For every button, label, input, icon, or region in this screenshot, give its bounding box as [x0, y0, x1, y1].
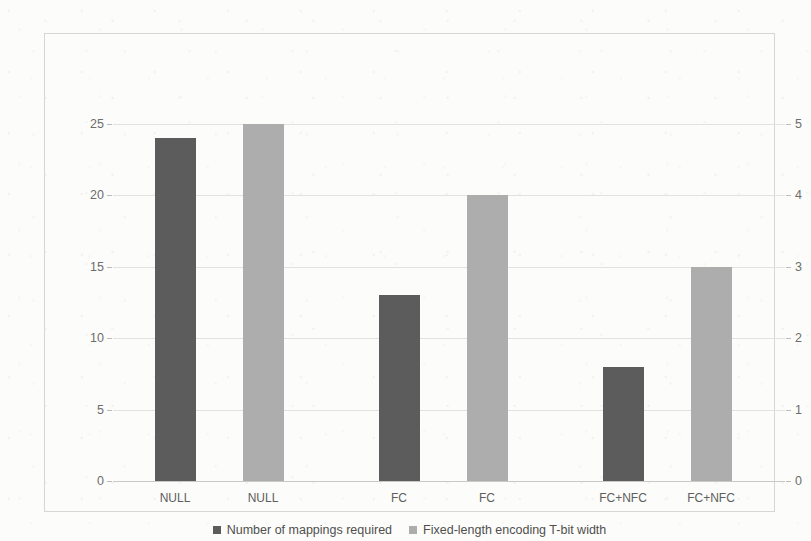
- y-axis-right-tick-mark: [786, 338, 791, 339]
- y-axis-left-tick-mark: [107, 481, 112, 482]
- y-axis-right-tick-mark: [786, 124, 791, 125]
- gridline: [113, 481, 785, 482]
- x-axis-tick-label: FC+NFC: [599, 491, 647, 505]
- legend-label: Fixed-length encoding T-bit width: [423, 523, 606, 537]
- y-axis-left-tick-label: 15: [90, 261, 104, 274]
- bar[interactable]: [603, 367, 644, 481]
- bar[interactable]: [155, 138, 196, 481]
- y-axis-right-tick-mark: [786, 410, 791, 411]
- bar[interactable]: [379, 295, 420, 481]
- legend-swatch-icon: [409, 526, 417, 534]
- legend-label: Number of mappings required: [227, 523, 392, 537]
- bar[interactable]: [467, 195, 508, 481]
- x-axis-tick-label: NULL: [160, 491, 191, 505]
- legend-swatch-icon: [213, 526, 221, 534]
- y-axis-right-tick-label: 2: [795, 332, 802, 345]
- y-axis-right-tick-label: 4: [795, 189, 802, 202]
- y-axis-left-tick-mark: [107, 195, 112, 196]
- bar[interactable]: [243, 124, 284, 481]
- y-axis-right-tick-mark: [786, 267, 791, 268]
- x-axis-tick-label: NULL: [248, 491, 279, 505]
- gridline: [113, 124, 785, 125]
- gridline: [113, 410, 785, 411]
- gridline: [113, 195, 785, 196]
- y-axis-right-tick-label: 3: [795, 261, 802, 274]
- y-axis-left-tick-label: 5: [97, 404, 104, 417]
- legend-item-number-of-mappings-required[interactable]: Number of mappings required: [213, 523, 392, 537]
- y-axis-left-tick-label: 25: [90, 118, 104, 131]
- y-axis-right-tick-label: 0: [795, 475, 802, 488]
- gridline: [113, 267, 785, 268]
- chart-frame: 0510152025012345NULLNULLFCFCFC+NFCFC+NFC…: [44, 33, 775, 512]
- x-axis-tick-label: FC: [479, 491, 495, 505]
- y-axis-left-tick-label: 0: [97, 475, 104, 488]
- y-axis-right-tick-label: 1: [795, 404, 802, 417]
- y-axis-right-tick-mark: [786, 195, 791, 196]
- chart-legend: Number of mappings required Fixed-length…: [45, 523, 774, 537]
- x-axis-tick-label: FC+NFC: [687, 491, 735, 505]
- y-axis-left-tick-label: 10: [90, 332, 104, 345]
- bar[interactable]: [691, 267, 732, 481]
- x-axis-tick-label: FC: [391, 491, 407, 505]
- y-axis-right-tick-mark: [786, 481, 791, 482]
- y-axis-left-tick-mark: [107, 338, 112, 339]
- y-axis-right-tick-label: 5: [795, 118, 802, 131]
- y-axis-left-tick-label: 20: [90, 189, 104, 202]
- y-axis-left-tick-mark: [107, 267, 112, 268]
- y-axis-left-tick-mark: [107, 124, 112, 125]
- y-axis-left-tick-mark: [107, 410, 112, 411]
- plot-area: 0510152025012345NULLNULLFCFCFC+NFCFC+NFC: [113, 124, 785, 481]
- legend-item-fixed-length-encoding-t-bit-width[interactable]: Fixed-length encoding T-bit width: [409, 523, 606, 537]
- gridline: [113, 338, 785, 339]
